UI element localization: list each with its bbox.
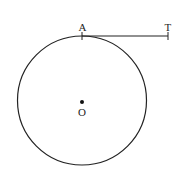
label-a: A (79, 21, 87, 33)
label-o: O (78, 106, 86, 118)
label-t: T (165, 21, 172, 33)
center-point (80, 100, 84, 104)
circle-tangent-diagram: A T O (0, 0, 178, 175)
